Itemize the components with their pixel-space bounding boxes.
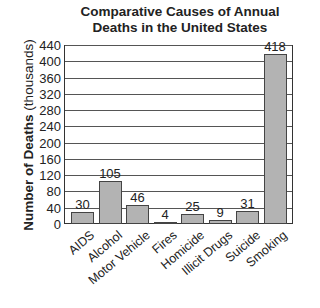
bar-smoking — [264, 54, 287, 224]
bar-homicide — [181, 214, 204, 224]
bar-aids — [71, 212, 94, 224]
value-label: 46 — [120, 191, 155, 204]
y-tick-label: 400 — [35, 55, 61, 68]
chart-title-line-2: Deaths in the United States — [60, 20, 300, 36]
y-tick-label: 360 — [35, 72, 61, 85]
y-tick-label: 200 — [35, 137, 61, 150]
bar-illicit-drugs — [209, 220, 232, 224]
y-tick-label: 160 — [35, 153, 61, 166]
value-label: 30 — [65, 198, 100, 211]
y-tick-label: 280 — [35, 104, 61, 117]
y-tick-label: 80 — [35, 185, 61, 198]
bar-fires — [154, 222, 177, 224]
value-label: 31 — [230, 197, 265, 210]
y-axis-label: Number of Deaths (thousands) — [21, 39, 36, 230]
y-axis-label-main: Number of Deaths — [21, 114, 36, 230]
bar-alcohol — [99, 181, 122, 224]
bar-motor-vehicle — [126, 205, 149, 224]
chart-title: Comparative Causes of Annual Deaths in t… — [60, 4, 300, 36]
chart-title-line-1: Comparative Causes of Annual — [60, 4, 300, 20]
y-tick-label: 0 — [35, 218, 61, 231]
y-tick-label: 320 — [35, 88, 61, 101]
y-tick-label: 240 — [35, 120, 61, 133]
value-label: 418 — [258, 40, 293, 53]
y-axis-label-unit: (thousands) — [21, 39, 36, 110]
y-tick-label: 120 — [35, 169, 61, 182]
value-label: 105 — [93, 167, 128, 180]
y-tick-label: 40 — [35, 202, 61, 215]
bar-suicide — [236, 211, 259, 224]
y-tick-label: 440 — [35, 39, 61, 52]
